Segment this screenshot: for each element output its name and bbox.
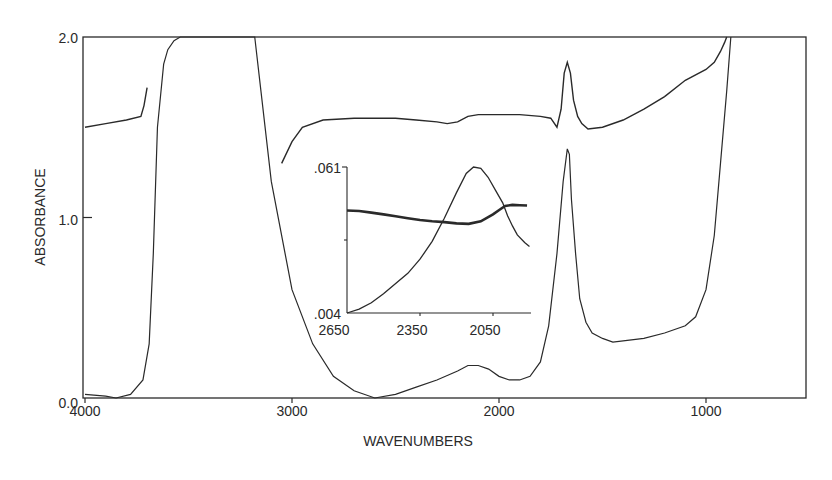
upper-spectrum-line — [85, 88, 147, 128]
x-tick-3000: 3000 — [276, 403, 307, 419]
upper-spectrum-line — [282, 37, 727, 163]
x-axis-label: WAVENUMBERS — [363, 433, 473, 449]
absorbance-chart: 2.0 1.0 0.0 4000 3000 2000 1000 WAVENUMB… — [0, 0, 832, 480]
x-tick-4000: 4000 — [69, 403, 100, 419]
axis-ticks — [83, 218, 706, 404]
inset-y-top: .061 — [314, 160, 341, 176]
y-tick-2: 2.0 — [59, 30, 79, 46]
inset-x-tick-2350: 2350 — [396, 322, 427, 338]
inset-x-tick-2050: 2050 — [469, 322, 500, 338]
y-tick-1: 1.0 — [59, 212, 79, 228]
x-tick-2000: 2000 — [483, 403, 514, 419]
inset-thin-line — [347, 167, 529, 313]
x-tick-1000: 1000 — [690, 403, 721, 419]
inset-x-tick-2650: 2650 — [318, 322, 349, 338]
inset-y-bottom: .004 — [314, 306, 341, 322]
inset-chart: .061 .004 2650 2350 2050 — [314, 160, 531, 338]
y-axis-label: ABSORBANCE — [32, 168, 48, 265]
inset-thick-line — [347, 205, 527, 224]
